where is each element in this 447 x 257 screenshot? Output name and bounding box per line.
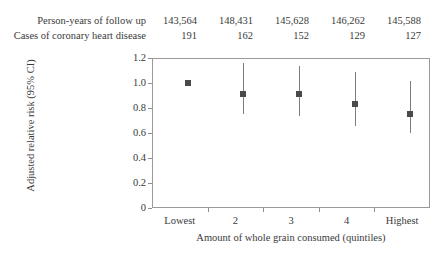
y-axis-tick (148, 108, 152, 109)
y-axis-tick-label: 0.8 (116, 103, 146, 113)
y-axis-tick-label: 1.2 (116, 53, 146, 63)
chart: 1.21.00.80.60.40.20 Lowest234Highest Adj… (0, 0, 447, 257)
y-axis-tick (148, 58, 152, 59)
y-axis-tick-label: 0.6 (116, 128, 146, 138)
x-axis-tick-label: Highest (367, 214, 437, 228)
data-point (185, 80, 191, 86)
x-axis-tick (374, 208, 375, 212)
y-axis-tick (148, 208, 152, 209)
data-point (352, 101, 358, 107)
y-axis-tick (148, 133, 152, 134)
y-axis-tick-label: 0.4 (116, 153, 146, 163)
y-axis-tick (148, 183, 152, 184)
x-axis-tick (263, 208, 264, 212)
data-point (296, 91, 302, 97)
data-point (407, 111, 413, 117)
x-axis-title: Amount of whole grain consumed (quintile… (152, 232, 430, 243)
y-axis-tick (148, 158, 152, 159)
x-axis-tick (319, 208, 320, 212)
y-axis-title: Adjusted relative risk (95% CI) (25, 31, 36, 221)
y-axis-tick-label: 1.0 (116, 78, 146, 88)
error-bar (410, 81, 411, 134)
error-bar (355, 72, 356, 126)
data-point (240, 91, 246, 97)
plot-frame (152, 58, 430, 208)
error-bar (243, 63, 244, 114)
y-axis-tick-label: 0.2 (116, 178, 146, 188)
y-axis-tick (148, 83, 152, 84)
y-axis-tick-label: 0 (116, 203, 146, 213)
x-axis-tick (208, 208, 209, 212)
